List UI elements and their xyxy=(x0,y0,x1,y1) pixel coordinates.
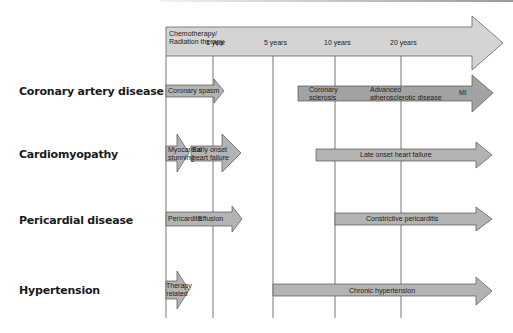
tick-5-years: 5 years xyxy=(264,39,287,47)
row-label-hypertension: Hypertension xyxy=(19,284,100,297)
row-label-cardiomyopathy: Cardiomyopathy xyxy=(19,148,118,161)
phase-line2: related xyxy=(166,290,188,298)
phase-line2: atherosclerotic disease xyxy=(370,94,442,102)
row-label-pericardial: Pericardial disease xyxy=(19,214,133,227)
phase-chronic-hypertension: Chronic hypertension xyxy=(349,287,415,295)
phase-advanced-atherosclerotic: Advanced atherosclerotic disease xyxy=(370,86,442,102)
tick-10-years: 10 years xyxy=(324,39,351,47)
tick-1-year: 1 year xyxy=(206,39,225,47)
phase-constrictive-pericarditis: Constrictive pericarditis xyxy=(366,215,438,223)
phase-effusion: Effusion xyxy=(198,215,223,223)
phase-coronary-spasm: Coronary spasm xyxy=(168,87,219,95)
phase-therapy-related: Therapy related xyxy=(166,282,188,298)
phase-mi: MI xyxy=(459,89,467,97)
phase-line1: Advanced xyxy=(370,86,442,94)
start-label-line1: Chemotherapy/ xyxy=(169,30,224,38)
phase-line2: sclerosis xyxy=(309,94,338,102)
phase-line1: Therapy xyxy=(166,282,188,290)
phase-early-onset-hf: Early onset heart failure xyxy=(192,146,229,162)
tick-20-years: 20 years xyxy=(390,39,417,47)
phase-line1: Coronary xyxy=(309,86,338,94)
phase-line2: heart failure xyxy=(192,154,229,162)
phase-coronary-sclerosis: Coronary sclerosis xyxy=(309,86,338,102)
phase-late-onset-hf: Late onset heart failure xyxy=(360,151,432,159)
phase-line1: Early onset xyxy=(192,146,229,154)
row-label-cad: Coronary artery disease xyxy=(19,85,164,98)
